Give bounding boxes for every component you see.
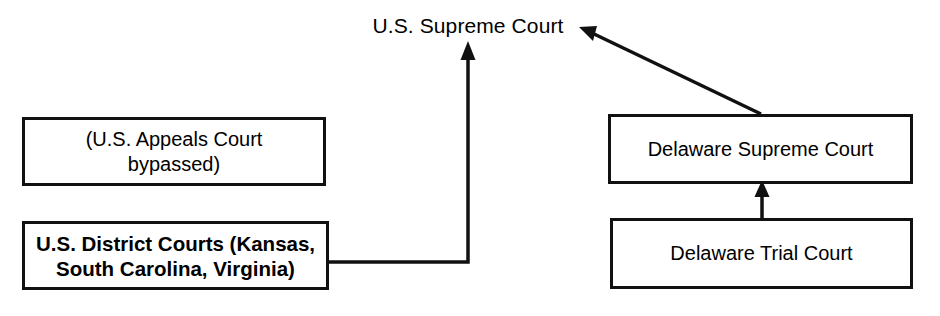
- court-hierarchy-diagram: U.S. Supreme Court (U.S. Appeals Court b…: [0, 0, 940, 316]
- node-label-us-district-courts: U.S. District Courts (Kansas, South Caro…: [30, 231, 321, 281]
- node-delaware-supreme-court: Delaware Supreme Court: [608, 114, 913, 184]
- node-label-delaware-supreme-court: Delaware Supreme Court: [642, 137, 880, 161]
- edge-delaware-trial-to-delaware-supreme: [755, 180, 770, 220]
- edge-delaware-supreme-to-us-supreme: [579, 26, 761, 114]
- node-label-u-s-supreme-court: U.S. Supreme Court: [358, 14, 578, 38]
- node-us-district-courts: U.S. District Courts (Kansas, South Caro…: [22, 221, 329, 290]
- node-u-s-supreme-court: U.S. Supreme Court: [358, 14, 578, 38]
- node-label-delaware-trial-court: Delaware Trial Court: [664, 241, 858, 265]
- edge-district-to-us-supreme: [329, 41, 476, 262]
- node-label-us-appeals-court-bypassed: (U.S. Appeals Court bypassed): [80, 127, 269, 176]
- node-delaware-trial-court: Delaware Trial Court: [610, 218, 913, 289]
- node-us-appeals-court-bypassed: (U.S. Appeals Court bypassed): [22, 117, 326, 186]
